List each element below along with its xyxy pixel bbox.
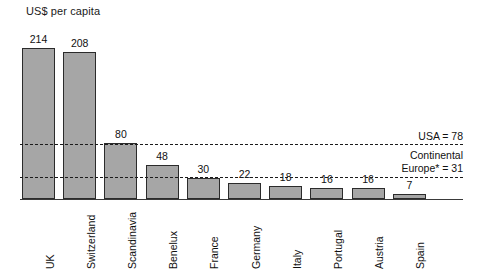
- plot-area: 214UK208Switzerland80Scandinavia48Benelu…: [0, 0, 477, 278]
- x-axis-line: [20, 199, 463, 200]
- category-label-portugal: Portugal: [332, 230, 344, 269]
- bar-france: [187, 178, 220, 199]
- reference-label-line1: Continental: [401, 149, 463, 162]
- bar-germany: [228, 183, 261, 199]
- bar-value-label: 22: [228, 168, 261, 180]
- reference-line-usa: [20, 144, 463, 145]
- bar-value-label: 16: [310, 173, 343, 185]
- category-label-italy: Italy: [291, 250, 303, 269]
- chart-container: US$ per capita 214UK208Switzerland80Scan…: [0, 0, 477, 278]
- reference-label-usa: USA = 78: [418, 130, 463, 143]
- category-label-uk: UK: [44, 254, 56, 269]
- reference-label-continental-europe: ContinentalEurope* = 31: [401, 149, 463, 174]
- category-label-switzerland: Switzerland: [85, 215, 97, 269]
- category-label-scandinavia: Scandinavia: [126, 212, 138, 269]
- bar-value-label: 80: [104, 128, 137, 140]
- bar-value-label: 30: [187, 163, 220, 175]
- bar-value-label: 48: [146, 150, 179, 162]
- reference-label-line2: Europe* = 31: [401, 162, 463, 175]
- category-label-germany: Germany: [250, 226, 262, 269]
- bar-value-label: 7: [393, 179, 426, 191]
- bar-portugal: [310, 188, 343, 199]
- bar-value-label: 208: [63, 37, 96, 49]
- bar-benelux: [146, 165, 179, 199]
- bar-austria: [352, 188, 385, 199]
- bar-spain: [393, 194, 426, 199]
- category-label-spain: Spain: [414, 242, 426, 269]
- bar-scandinavia: [104, 143, 137, 199]
- category-label-france: France: [208, 236, 220, 269]
- bar-value-label: 214: [22, 33, 55, 45]
- bar-value-label: 16: [352, 173, 385, 185]
- bar-italy: [269, 186, 302, 199]
- category-label-benelux: Benelux: [167, 231, 179, 269]
- category-label-austria: Austria: [373, 236, 385, 269]
- reference-line-continental-europe: [20, 177, 463, 178]
